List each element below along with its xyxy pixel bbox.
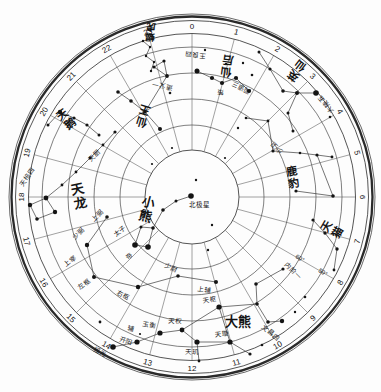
star: [35, 217, 39, 221]
star: [214, 280, 218, 284]
star: [210, 76, 214, 80]
star: [145, 55, 147, 57]
hour-label: 5: [352, 150, 362, 157]
star: [142, 40, 144, 42]
star: [281, 267, 284, 270]
hour-label: 3: [308, 72, 318, 82]
star: [105, 215, 109, 219]
star: [149, 46, 151, 48]
star-name-label: 造父一: [151, 80, 173, 93]
star: [267, 120, 270, 123]
constellation-line: [143, 41, 154, 71]
star: [195, 179, 197, 181]
star-name-label: 天枢: [202, 294, 217, 305]
constellation-label: 天龙: [70, 180, 90, 211]
star: [251, 74, 254, 77]
star: [113, 130, 116, 133]
hour-label: 7: [353, 237, 363, 244]
star: [255, 302, 259, 306]
star: [294, 311, 296, 313]
constellation-label: 天猫: [319, 217, 346, 239]
star-name-label: 帝: [123, 250, 134, 261]
constellation-line: [230, 342, 250, 354]
star: [331, 156, 334, 159]
star: [204, 49, 206, 51]
star-name-label: 阁道三: [229, 80, 252, 97]
star: [295, 91, 299, 95]
star: [292, 130, 295, 133]
star: [85, 243, 89, 247]
star: [53, 210, 57, 214]
star: [266, 320, 270, 324]
star-name-label: 天权: [168, 316, 183, 326]
star: [331, 194, 335, 198]
star: [315, 153, 318, 156]
star: [281, 89, 285, 93]
hour-label: 6: [358, 195, 367, 200]
star: [258, 51, 261, 54]
constellation-line: [153, 196, 191, 228]
star: [175, 200, 178, 203]
star: [98, 134, 101, 137]
star: [145, 244, 151, 250]
star: [153, 61, 155, 63]
constellation-line: [296, 155, 333, 196]
constellation-label: 大熊: [225, 314, 251, 329]
star: [157, 330, 162, 335]
star: [335, 247, 338, 250]
star: [211, 224, 213, 226]
star: [151, 163, 153, 165]
star: [150, 70, 152, 72]
star: [132, 242, 138, 248]
hour-label: 4: [335, 107, 345, 116]
star: [165, 74, 169, 78]
star: [287, 112, 290, 115]
star: [311, 218, 314, 221]
star: [85, 123, 88, 126]
star: [161, 208, 165, 212]
star-name-label: 天璇: [215, 329, 230, 339]
star: [176, 274, 180, 278]
star: [237, 127, 239, 129]
star: [220, 81, 224, 85]
hour-radial-line: [233, 115, 334, 173]
star-name-label: 左枢: [76, 276, 92, 292]
hour-label: 18: [17, 192, 26, 201]
star: [47, 124, 50, 127]
star: [227, 339, 232, 344]
hour-radial-line: [150, 39, 180, 152]
star: [268, 67, 271, 70]
star-name-label: 少卫: [268, 141, 283, 156]
hour-radial-line: [50, 221, 151, 279]
star: [198, 360, 201, 363]
star: [99, 321, 102, 324]
constellation-label: 蝎虎: [144, 21, 155, 43]
star-name-label: 少弼: [70, 225, 86, 241]
hour-label: 15: [65, 312, 78, 325]
star: [134, 339, 139, 344]
star-name-label: 上辅: [196, 284, 211, 295]
star: [280, 319, 284, 323]
star-name-label: 上宰: [62, 253, 78, 269]
constellation-label: 小熊: [137, 193, 157, 224]
hour-label: 2: [273, 44, 282, 54]
star: [158, 127, 162, 131]
star: [216, 304, 221, 309]
star: [254, 282, 258, 286]
hour-label: 16: [38, 277, 51, 290]
star: [102, 144, 105, 147]
hour-label: 11: [231, 357, 242, 368]
constellation-label: 仙王: [134, 103, 152, 130]
constellation-line: [219, 304, 257, 307]
declination-label: 50°: [318, 267, 329, 277]
hour-radial-line: [150, 242, 180, 355]
star: [261, 344, 264, 347]
hour-label: 8: [335, 278, 345, 287]
star: [162, 59, 165, 62]
star: [151, 226, 155, 230]
star: [207, 249, 209, 251]
star: [313, 90, 319, 96]
star: [329, 116, 332, 119]
star: [242, 62, 244, 64]
hour-label: 19: [22, 147, 33, 158]
